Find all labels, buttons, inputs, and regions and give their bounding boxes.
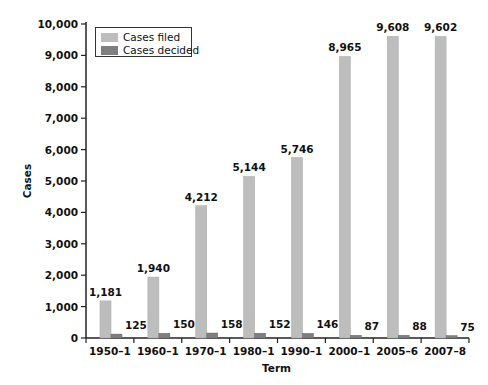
y-tick-label: 9,000 [45, 49, 78, 61]
y-tick-label: 1,000 [45, 301, 78, 313]
y-tick-label: 6,000 [45, 144, 78, 156]
y-tick-label: 0 [71, 332, 78, 344]
y-tick-label: 4,000 [45, 206, 78, 218]
bar-cases-decided [303, 333, 314, 338]
bar-cases-filed [148, 277, 159, 338]
y-tick-label: 2,000 [45, 269, 78, 281]
bar-cases-decided [111, 334, 122, 338]
bar-cases-filed [435, 36, 446, 338]
label-cases-decided: 125 [125, 319, 147, 331]
label-cases-filed: 8,965 [328, 41, 361, 53]
legend-swatch-filed [101, 33, 118, 42]
bar-cases-decided [207, 333, 218, 338]
legend-label-filed: Cases filed [123, 31, 180, 43]
label-cases-filed: 9,608 [376, 21, 409, 33]
y-axis-label: Cases [21, 164, 33, 198]
label-cases-filed: 4,212 [185, 191, 218, 203]
bar-cases-decided [350, 335, 361, 338]
label-cases-filed: 5,144 [233, 161, 266, 173]
bar-cases-filed [387, 36, 398, 338]
x-axis: 1950–11960–11970–11980–11990–12000–12005… [86, 338, 469, 357]
x-tick-label: 1970–1 [185, 345, 227, 357]
y-tick-label: 3,000 [45, 238, 78, 250]
x-tick-label: 1950–1 [89, 345, 131, 357]
x-tick-label: 1980–1 [233, 345, 275, 357]
x-tick-label: 1960–1 [137, 345, 179, 357]
label-cases-filed: 1,940 [137, 262, 170, 274]
bar-cases-decided [398, 335, 409, 338]
bar-cases-decided [159, 333, 170, 338]
x-tick-label: 2000–1 [328, 345, 370, 357]
label-cases-decided: 88 [412, 320, 427, 332]
bar-cases-decided [446, 336, 457, 338]
bar-cases-filed [100, 301, 111, 338]
label-cases-decided: 150 [173, 318, 195, 330]
y-tick-label: 8,000 [45, 81, 78, 93]
x-tick-label: 2005–6 [376, 345, 418, 357]
legend-item-decided: Cases decided [101, 44, 199, 56]
bar-cases-filed [244, 176, 255, 338]
bar-cases-filed [339, 56, 350, 338]
bars: 1,1811251,9401504,2121585,1441525,746146… [89, 21, 475, 338]
label-cases-filed: 9,602 [424, 21, 457, 33]
label-cases-decided: 87 [364, 320, 379, 332]
legend-item-filed: Cases filed [101, 31, 180, 43]
label-cases-decided: 152 [269, 318, 291, 330]
bar-cases-filed [196, 206, 207, 338]
bar-cases-filed [292, 158, 303, 338]
x-tick-label: 1990–1 [281, 345, 323, 357]
legend-label-decided: Cases decided [123, 44, 199, 56]
label-cases-decided: 146 [317, 318, 339, 330]
label-cases-decided: 75 [460, 321, 475, 333]
x-tick-label: 2007–8 [424, 345, 466, 357]
legend-swatch-decided [101, 46, 118, 55]
y-axis: 01,0002,0003,0004,0005,0006,0007,0008,00… [37, 18, 86, 344]
y-tick-label: 7,000 [45, 112, 78, 124]
label-cases-decided: 158 [221, 318, 243, 330]
y-tick-label: 10,000 [37, 18, 78, 30]
y-tick-label: 5,000 [45, 175, 78, 187]
label-cases-filed: 5,746 [280, 143, 313, 155]
legend: Cases filed Cases decided [95, 27, 192, 57]
label-cases-filed: 1,181 [89, 286, 122, 298]
x-axis-label: Term [262, 362, 291, 374]
bar-chart: 01,0002,0003,0004,0005,0006,0007,0008,00… [0, 0, 488, 385]
bar-cases-decided [255, 333, 266, 338]
